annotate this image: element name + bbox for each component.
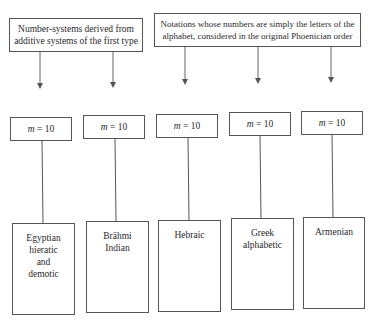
leaf-label-line: Hebraic [159,229,220,241]
leaf-armenian: Armenian [303,217,365,309]
base-value: = 10 [254,119,274,129]
leaf-label-line: hieratic [13,244,74,256]
base-variable: m [319,118,326,128]
base-value: = 10 [181,121,201,131]
group-additive-systems: Number-systems derived from additive sys… [9,18,143,52]
base-variable: m [247,119,254,129]
base-variable: m [174,121,181,131]
leaf-hebraic: Hebraic [158,220,221,312]
leaf-label-line: Egyptian [13,232,74,244]
base-box-egyptian: m = 10 [10,117,72,141]
base-box-armenian: m = 10 [301,111,363,135]
leaf-label-line: alphabetic [232,239,293,251]
group-phoenician-alphabet: Notations whose numbers are simply the l… [154,13,361,47]
leaf-label-line: Indian [87,242,148,254]
leaf-label-line: demotic [13,268,74,280]
group-label-line: Number-systems derived from [14,23,138,35]
base-value: = 10 [35,124,55,134]
base-box-brahmi: m = 10 [83,115,145,139]
leaf-egyptian: Egyptian hieratic and demotic [12,223,75,315]
leaf-brahmi: Brāhmi Indian [86,221,149,313]
group-label-line: additive systems of the first type [14,35,138,47]
group-label-line: alphabet, considered in the original Pho… [161,30,355,42]
base-variable: m [101,122,108,132]
base-value: = 10 [326,118,346,128]
leaf-label-line: Armenian [304,226,364,238]
leaf-greek: Greek alphabetic [231,218,294,310]
base-box-greek: m = 10 [229,112,291,136]
base-value: = 10 [108,122,128,132]
leaf-label-line: Brāhmi [87,230,148,242]
leaf-label-line: and [13,256,74,268]
base-box-hebraic: m = 10 [156,114,218,138]
group-label-line: Notations whose numbers are simply the l… [161,18,355,30]
base-variable: m [28,124,35,134]
leaf-label-line: Greek [232,227,293,239]
